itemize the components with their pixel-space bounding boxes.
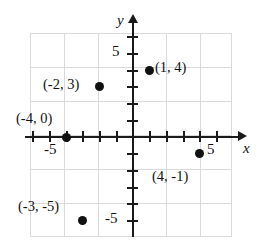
y-axis-arrow-icon [128,14,138,23]
data-point-label-neg3-neg5: (-3, -5) [18,198,59,215]
data-point-1-4 [145,66,154,75]
gridline-horizontal [30,236,232,237]
y-axis-tick [127,153,138,155]
x-axis-tick [32,131,34,142]
x-axis-tick [216,131,218,142]
data-point-neg4-0 [62,133,71,142]
x-axis-tick [166,131,168,142]
gridline-horizontal [30,101,232,102]
data-point-label-1-4: (1, 4) [155,59,186,76]
data-point-label-4-neg1: (4, -1) [152,168,188,185]
x-axis-tick [149,131,151,142]
graph-paper-grid [30,33,232,237]
x-axis-tick [82,131,84,142]
x-tick-label-negative-5: -5 [44,141,57,158]
y-axis-tick [127,86,138,88]
x-axis-tick [183,131,185,142]
y-tick-label-positive-5: 5 [112,43,120,60]
x-axis-label: x [243,140,250,157]
gridline-horizontal [30,67,232,68]
y-axis-tick [127,36,138,38]
data-point-label-neg2-3: (-2, 3) [43,76,79,93]
y-axis-label: y [117,12,124,29]
y-axis-tick [127,103,138,105]
x-axis-tick [116,131,118,142]
coordinate-plane-figure: x y -5 5 5 -5 (1, 4) (-2, 3) (-4, 0) (4,… [0,0,265,251]
x-axis-tick [99,131,101,142]
y-axis-tick [127,53,138,55]
y-axis-tick [127,170,138,172]
data-point-label-neg4-0: (-4, 0) [16,110,52,127]
y-axis-tick [127,70,138,72]
x-tick-label-positive-5: 5 [207,141,215,158]
y-axis-tick [127,220,138,222]
y-tick-label-negative-5: -5 [105,210,118,227]
x-axis-tick [199,131,201,142]
y-axis-tick [127,203,138,205]
y-axis-tick [127,187,138,189]
gridline-horizontal [30,33,232,34]
y-axis-tick [127,120,138,122]
